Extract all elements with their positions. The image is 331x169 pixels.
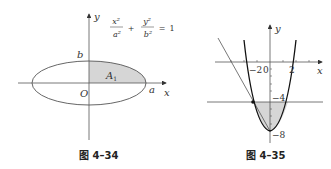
svg-text:b²: b² — [144, 30, 152, 39]
label-a: a — [149, 84, 155, 95]
label-b: b — [77, 49, 83, 60]
tick-label-neg8: −8 — [272, 130, 286, 140]
tick-label-neg4: −4 — [272, 93, 286, 103]
svg-text:1: 1 — [169, 24, 174, 33]
tangent-point — [251, 100, 255, 104]
svg-text:y²: y² — [142, 17, 151, 26]
svg-text:x²: x² — [112, 17, 120, 26]
y-axis-label: y — [93, 11, 100, 22]
svg-text:+: + — [128, 24, 135, 33]
y-axis-label: y — [274, 23, 281, 34]
svg-text:=: = — [159, 24, 166, 33]
figures-canvas: y x O b a A1 x² a² + y² b² = 1 图 4–34 — [0, 0, 331, 169]
tick-label-2: 2 — [289, 65, 295, 75]
tangent-line — [218, 38, 270, 131]
x-axis-label: x — [164, 87, 170, 98]
figure-4-35: y x −2 0 2 −4 −8 图 4–35 — [207, 23, 323, 161]
tick-label-neg2: −2 — [249, 65, 262, 75]
caption-4-35: 图 4–35 — [246, 150, 285, 161]
svg-text:a²: a² — [113, 30, 121, 39]
caption-4-34: 图 4–34 — [79, 150, 118, 161]
x-axis-label: x — [317, 65, 323, 76]
origin-label: O — [80, 88, 88, 99]
tick-label-0: 0 — [263, 65, 269, 75]
ellipse-equation: x² a² + y² b² = 1 — [110, 17, 175, 39]
figure-4-34: y x O b a A1 x² a² + y² b² = 1 图 4–34 — [18, 11, 175, 161]
